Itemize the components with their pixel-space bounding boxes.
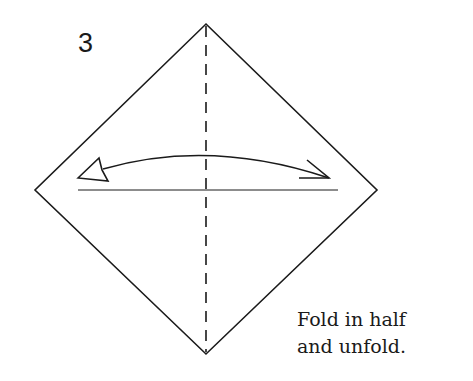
- step-number: 3: [78, 30, 93, 57]
- fold-arrowhead-icon: [299, 160, 329, 178]
- instruction-line-2: and unfold.: [297, 333, 406, 360]
- instruction-line-1: Fold in half: [297, 306, 406, 333]
- instruction-text: Fold in half and unfold.: [297, 306, 406, 360]
- fold-arrow-arc: [103, 155, 329, 178]
